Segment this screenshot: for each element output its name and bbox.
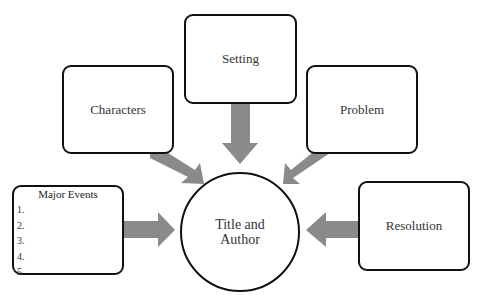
- arrow-characters-to-center: [150, 153, 204, 184]
- major-events-title: Major Events: [14, 188, 122, 200]
- characters-box: Characters: [62, 65, 174, 154]
- event-item-1: 1.: [17, 202, 122, 218]
- problem-box: Problem: [306, 65, 418, 154]
- event-item-4: 4.: [17, 249, 122, 265]
- center-label-line1: Title and: [215, 217, 265, 232]
- event-item-5: 5.: [17, 264, 122, 280]
- setting-box: Setting: [184, 14, 297, 104]
- arrow-resolution-to-center: [306, 212, 358, 247]
- event-item-2: 2.: [17, 218, 122, 234]
- title-author-circle: Title and Author: [180, 172, 300, 292]
- major-events-list: 1. 2. 3. 4. 5.: [17, 202, 122, 280]
- arrow-setting-to-center: [222, 103, 258, 164]
- problem-label: Problem: [340, 102, 384, 118]
- resolution-box: Resolution: [358, 181, 470, 271]
- center-label-line2: Author: [215, 232, 265, 247]
- resolution-label: Resolution: [386, 218, 442, 234]
- setting-label: Setting: [222, 51, 259, 67]
- arrow-problem-to-center: [283, 153, 330, 184]
- event-item-3: 3.: [17, 233, 122, 249]
- arrow-events-to-center: [123, 212, 175, 247]
- characters-label: Characters: [90, 102, 146, 118]
- major-events-box: Major Events 1. 2. 3. 4. 5.: [12, 185, 124, 275]
